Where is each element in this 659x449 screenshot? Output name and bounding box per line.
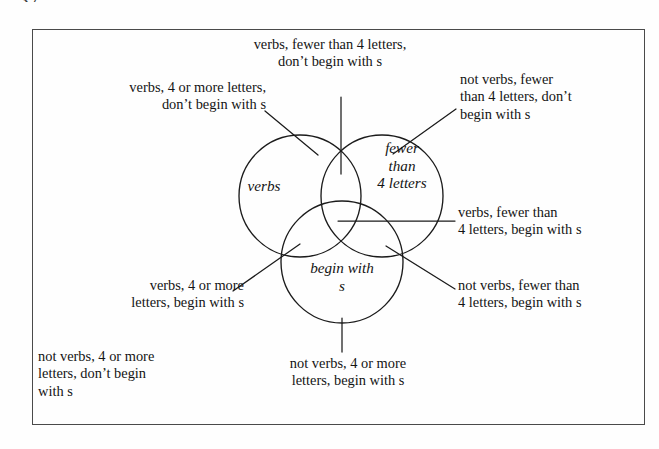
region-label-top-left: verbs, 4 or more letters, don’t begin wi…: [28, 79, 266, 114]
set-label-fewer-than-4-letters: fewer than 4 letters: [356, 139, 448, 192]
region-label-middle-left: verbs, 4 or more letters, begin with s: [46, 277, 244, 312]
set-label-begin-with-s: begin with s: [288, 259, 396, 294]
set-label-verbs: verbs: [222, 177, 306, 195]
region-label-top-right: not verbs, fewer than 4 letters, don’t b…: [460, 71, 646, 123]
region-label-bottom-left: not verbs, 4 or more letters, don’t begi…: [38, 348, 216, 400]
region-label-top: verbs, fewer than 4 letters, don’t begin…: [196, 36, 464, 71]
region-label-bottom-center: not verbs, 4 or more letters, begin with…: [240, 355, 456, 390]
figure-page: 37. verbs, fewer than 4 letters, don’t b…: [0, 0, 659, 449]
page-number-fragment: 37.: [18, 0, 46, 2]
region-label-middle-right: verbs, fewer than 4 letters, begin with …: [458, 204, 650, 239]
region-label-bottom-right: not verbs, fewer than 4 letters, begin w…: [458, 277, 654, 312]
